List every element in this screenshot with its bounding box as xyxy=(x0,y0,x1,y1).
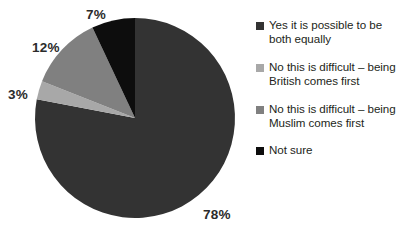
legend-item-4[interactable]: Not sure xyxy=(256,143,397,157)
legend-swatch-british-first xyxy=(256,64,264,72)
legend-swatch-muslim-first xyxy=(256,106,264,114)
legend-item-1[interactable]: Yes it is possible to be both equally xyxy=(256,18,397,47)
pie-slice-group xyxy=(35,18,235,218)
legend-swatch-not-sure xyxy=(256,147,264,155)
pie-svg xyxy=(0,0,250,238)
legend-label-1: Yes it is possible to be both equally xyxy=(269,18,397,47)
pie-label-muslim-first: 12% xyxy=(32,41,60,55)
legend-label-4: Not sure xyxy=(269,143,312,157)
pie-chart: 7% 12% 3% 78% Yes it is possible to be b… xyxy=(0,0,397,238)
pie-plot-area: 7% 12% 3% 78% xyxy=(0,0,250,238)
legend-label-3: No this is difficult – being Muslim come… xyxy=(269,102,397,131)
legend-swatch-yes-equally xyxy=(256,22,264,30)
pie-label-yes-equally: 78% xyxy=(203,208,231,222)
legend-item-3[interactable]: No this is difficult – being Muslim come… xyxy=(256,102,397,131)
legend-label-2: No this is difficult – being British com… xyxy=(269,60,397,89)
legend-item-2[interactable]: No this is difficult – being British com… xyxy=(256,60,397,89)
pie-label-not-sure: 7% xyxy=(86,8,106,22)
chart-legend: Yes it is possible to be both equallyNo … xyxy=(256,18,397,171)
pie-label-british-first: 3% xyxy=(8,88,28,102)
